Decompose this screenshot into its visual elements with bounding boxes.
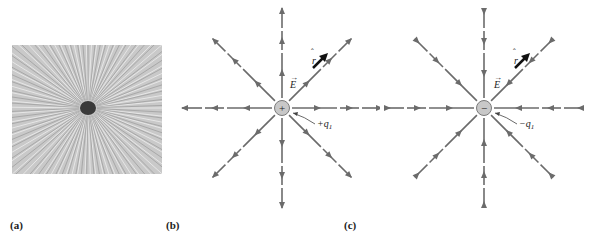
grass-seed-photo	[12, 45, 162, 174]
panel-a-photo	[12, 45, 162, 174]
panel-label-a: (a)	[10, 219, 23, 231]
panel-label-b: (b)	[166, 219, 179, 231]
panel-b-positive-charge: + r ˆ E → +q1	[180, 0, 380, 215]
charge-label: +q1	[317, 118, 332, 131]
charge-sign: +	[279, 102, 285, 114]
svg-text:→: →	[494, 73, 502, 82]
charged-object	[80, 101, 96, 115]
charge-sign: −	[481, 102, 487, 114]
charge-label: −q1	[519, 118, 534, 131]
panel-label-c: (c)	[344, 219, 356, 231]
svg-text:ˆ: ˆ	[311, 48, 314, 57]
svg-text:ˆ: ˆ	[513, 48, 516, 57]
panel-c-negative-charge: − r ˆ E → −q1	[380, 0, 593, 215]
svg-text:→: →	[290, 73, 298, 82]
